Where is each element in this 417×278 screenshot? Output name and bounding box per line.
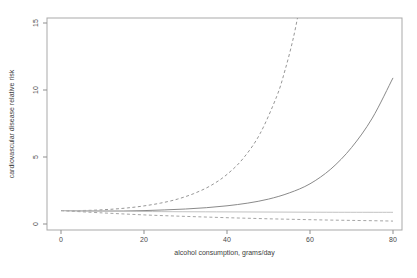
y-tick-label: 5 — [32, 155, 39, 159]
series-dashed-steep-increasing-risk-line — [61, 7, 300, 211]
r-plot-figure: 020406080051015 alcohol consumption, gra… — [0, 0, 417, 278]
plot-box — [47, 18, 402, 230]
series-flat-reference-risk-line — [61, 211, 393, 213]
x-tick-label: 0 — [59, 236, 63, 243]
x-tick-label: 60 — [306, 236, 314, 243]
y-tick-label: 10 — [32, 86, 39, 94]
y-tick-label: 15 — [32, 19, 39, 27]
x-tick-label: 40 — [223, 236, 231, 243]
x-tick-label: 80 — [389, 236, 397, 243]
x-tick-label: 20 — [140, 236, 148, 243]
y-axis-title: cardiovascular disease relative risk — [8, 70, 15, 179]
y-tick-label: 0 — [32, 222, 39, 226]
x-axis-title: alcohol consumption, grams/day — [47, 249, 402, 256]
series-solid-increasing-risk-line — [61, 78, 393, 211]
chart-canvas: 020406080051015 — [0, 0, 417, 278]
